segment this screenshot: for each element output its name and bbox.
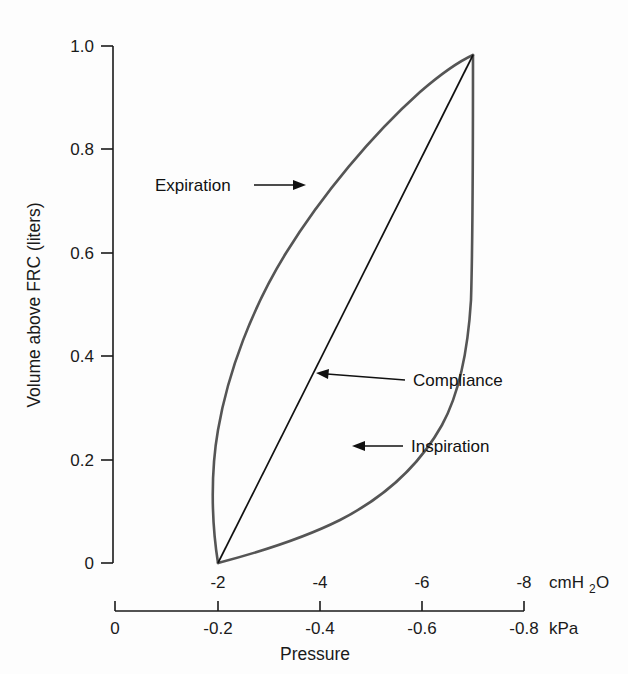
y-axis-title: Volume above FRC (liters) — [24, 202, 44, 407]
x-axis-secondary-group: 0 -0.2 -0.4 -0.6 -0.8 kPa Pressure — [110, 601, 579, 664]
y-tick-label-0.8: 0.8 — [70, 140, 94, 159]
annotation-inspiration-label: Inspiration — [411, 437, 489, 456]
annotation-compliance: Compliance — [316, 369, 503, 390]
x-secondary-tick-label-0: 0 — [110, 619, 119, 638]
x-secondary-unit-label: kPa — [549, 619, 579, 638]
annotation-expiration-label: Expiration — [155, 176, 231, 195]
annotation-inspiration: Inspiration — [352, 437, 489, 456]
x-axis-title: Pressure — [280, 644, 350, 664]
data-curves-group — [213, 55, 473, 563]
x-primary-unit-main: cmH — [549, 573, 584, 592]
x-secondary-tick-label--0.4: -0.4 — [305, 619, 334, 638]
annotation-expiration-arrow-icon — [293, 180, 306, 190]
x-primary-unit-label: cmH 2 O — [549, 573, 609, 596]
x-secondary-tick-label--0.8: -0.8 — [509, 619, 538, 638]
x-primary-tick-label--4: -4 — [312, 573, 327, 592]
annotation-compliance-leader — [327, 374, 405, 380]
x-primary-tick-label--2: -2 — [210, 573, 225, 592]
x-secondary-tick-label--0.2: -0.2 — [203, 619, 232, 638]
annotation-compliance-label: Compliance — [413, 371, 503, 390]
x-axis-primary-group: -2 -4 -6 -8 cmH 2 O — [210, 573, 609, 596]
y-axis-group: 1.0 0.8 0.6 0.4 0.2 0 Volume above FRC (… — [24, 37, 113, 573]
annotation-inspiration-arrow-icon — [352, 441, 365, 451]
x-primary-unit-subscript: 2 — [589, 582, 596, 596]
y-tick-label-1.0: 1.0 — [70, 37, 94, 56]
annotation-compliance-arrow-icon — [316, 369, 329, 379]
pressure-volume-hysteresis-figure: 1.0 0.8 0.6 0.4 0.2 0 Volume above FRC (… — [0, 0, 628, 674]
y-tick-label-0.2: 0.2 — [70, 451, 94, 470]
chart-canvas: 1.0 0.8 0.6 0.4 0.2 0 Volume above FRC (… — [0, 0, 628, 674]
y-tick-label-0.4: 0.4 — [70, 347, 94, 366]
x-primary-unit-tail: O — [596, 573, 609, 592]
x-primary-tick-label--6: -6 — [414, 573, 429, 592]
y-tick-label-0: 0 — [85, 554, 94, 573]
x-secondary-tick-label--0.6: -0.6 — [407, 619, 436, 638]
x-primary-tick-label--8: -8 — [516, 573, 531, 592]
annotation-expiration: Expiration — [155, 176, 306, 195]
y-tick-label-0.6: 0.6 — [70, 244, 94, 263]
